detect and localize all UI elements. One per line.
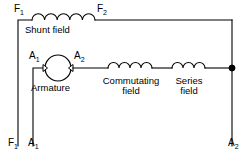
armature-label: Armature [31, 83, 70, 93]
terminal-label-a1-bottom: A1 [28, 138, 39, 149]
circuit-diagram: F1 F2 Shunt field A1 A2 Armature Commuta… [0, 0, 251, 154]
shunt-field-coil [32, 14, 95, 20]
commutating-field-label: Commutating field [95, 76, 167, 97]
commutating-field-label-line2: field [95, 86, 167, 96]
junction-node-dot [229, 65, 235, 71]
shunt-field-label: Shunt field [25, 25, 70, 35]
terminal-label-f1-bottom: F1 [8, 138, 18, 149]
terminal-label-a2-bottom: A2 [228, 138, 239, 149]
terminal-label-f1-top: F1 [14, 4, 24, 15]
wire-a1-left-vertical [33, 68, 43, 146]
commutating-field-coil [108, 63, 152, 68]
terminal-label-a2-armature: A2 [74, 51, 85, 62]
wire-f1-left-vertical [18, 20, 32, 146]
series-field-label: Series field [168, 76, 210, 97]
terminal-label-f2-top: F2 [97, 4, 107, 15]
series-field-coil [172, 63, 205, 68]
terminal-label-a1-armature: A1 [29, 51, 40, 62]
series-field-label-line2: field [168, 86, 210, 96]
armature-circle [45, 55, 71, 81]
